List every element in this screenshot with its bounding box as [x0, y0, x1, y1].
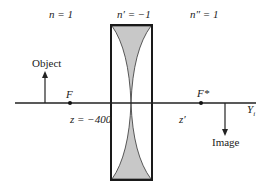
object-label: Object [32, 58, 61, 69]
left-index-label: n = 1 [49, 9, 73, 20]
image-label: Image [212, 137, 239, 148]
diagram-graphics [0, 0, 271, 192]
lens-index-label: n′ = −1 [117, 9, 151, 20]
lens-upper-cusp [112, 26, 151, 103]
lens-lower-cusp [112, 103, 151, 179]
object-distance-label: z = −400 [70, 114, 111, 125]
lens-diagram: n = 1 n′ = −1 n″ = 1 Object Image F F* z… [0, 0, 271, 192]
image-distance-label: z′ [179, 114, 186, 125]
axis-label: Yi [247, 104, 255, 118]
object-arrow-head [42, 71, 48, 78]
image-arrow-head [222, 129, 228, 136]
rear-focus-label: F* [197, 88, 209, 99]
front-focus-label: F [66, 89, 73, 100]
rear-focal-point [199, 101, 203, 105]
axis-label-subscript: i [253, 110, 255, 118]
right-index-label: n″ = 1 [190, 9, 219, 20]
front-focal-point [68, 101, 72, 105]
